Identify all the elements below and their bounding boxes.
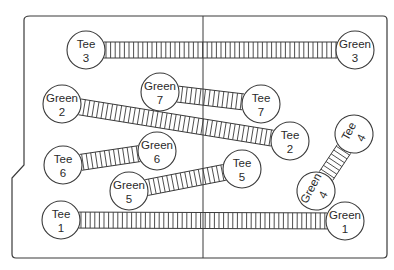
tee-2-node: Tee2 — [271, 122, 309, 160]
tee-label: Tee — [54, 153, 73, 165]
golf-course-diagram: Tee3Green3Tee7Green7Tee2Green2Tee4Green4… — [0, 0, 394, 270]
green-number: 5 — [126, 193, 132, 205]
tee-3-node: Tee3 — [67, 31, 105, 69]
green-label: Green — [329, 209, 361, 221]
tee-7-node: Tee7 — [242, 85, 280, 123]
tee-number: 5 — [239, 171, 245, 183]
green-2-node: Green2 — [43, 85, 81, 123]
green-label: Green — [339, 38, 371, 50]
green-label: Green — [141, 139, 173, 151]
green-number: 6 — [154, 153, 160, 165]
green-1-node: Green1 — [326, 202, 364, 240]
green-number: 7 — [157, 94, 163, 106]
green-number: 2 — [59, 106, 65, 118]
tee-6-node: Tee6 — [44, 146, 82, 184]
tee-number: 7 — [258, 106, 264, 118]
green-number: 1 — [342, 223, 348, 235]
tee-label: Tee — [52, 208, 71, 220]
green-3-node: Green3 — [336, 31, 374, 69]
tee-number: 1 — [58, 222, 64, 234]
tee-label: Tee — [233, 157, 252, 169]
tee-1-node: Tee1 — [42, 201, 80, 239]
green-label: Green — [144, 80, 176, 92]
tee-5-node: Tee5 — [223, 150, 261, 188]
green-label: Green — [46, 92, 78, 104]
tee-label: Tee — [281, 129, 300, 141]
green-number: 3 — [352, 52, 358, 64]
tee-label: Tee — [252, 92, 271, 104]
green-7-node: Green7 — [141, 73, 179, 111]
green-5-node: Green5 — [110, 172, 148, 210]
tee-label: Tee — [77, 38, 96, 50]
tee-number: 3 — [83, 52, 89, 64]
tee-number: 2 — [287, 143, 293, 155]
tee-number: 6 — [60, 167, 66, 179]
green-label: Green — [113, 179, 145, 191]
green-6-node: Green6 — [138, 132, 176, 170]
